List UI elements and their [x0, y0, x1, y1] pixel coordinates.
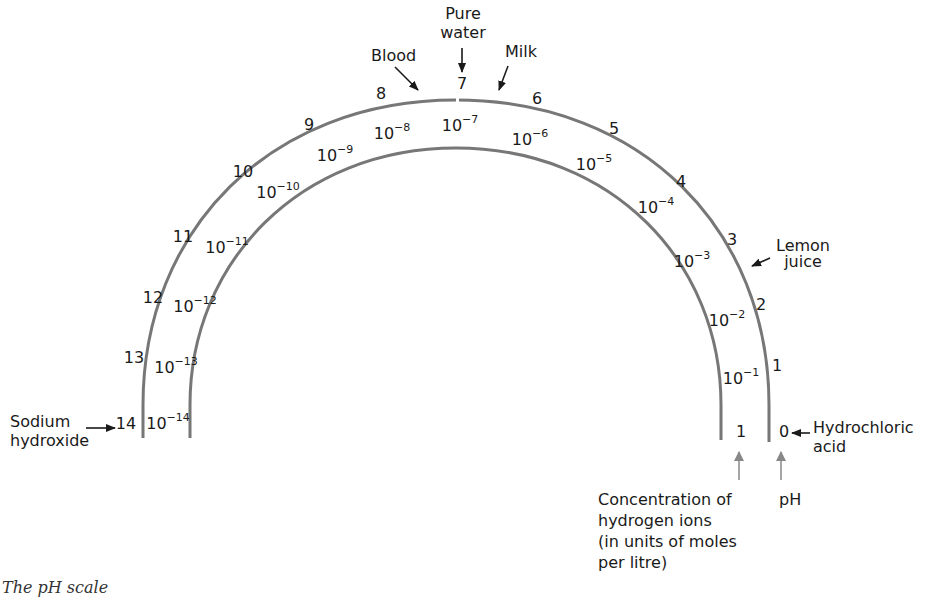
milk-label: Milk [505, 42, 537, 61]
ph-label-12: 12 [143, 289, 163, 307]
conc-label-4: 10−4 [638, 199, 675, 217]
conc-label-2: 10−2 [709, 312, 746, 330]
ph-label-3: 3 [727, 231, 737, 249]
conc-label-9: 10−9 [317, 147, 354, 165]
lemon-juice-label: Lemon juice [776, 237, 830, 269]
ph-label-14: 14 [116, 415, 136, 433]
ph-label-2: 2 [756, 296, 766, 314]
conc-label-7: 10−7 [442, 117, 479, 135]
conc-label-13: 10−13 [154, 359, 198, 377]
ph-label-9: 9 [304, 116, 314, 134]
figure-caption: The pH scale [2, 578, 108, 597]
conc-label-6: 10−6 [512, 131, 549, 149]
ph-label-1: 1 [772, 357, 782, 375]
hydrochloric-acid-label: Hydrochloric acid [813, 418, 914, 456]
conc-label-8: 10−8 [374, 125, 411, 143]
conc-label-12: 10−12 [173, 298, 217, 316]
outer-arc [143, 100, 769, 442]
sodium-hydroxide-label: Sodium hydroxide [10, 412, 89, 450]
milk-arrow [499, 66, 508, 90]
conc-label-5: 10−5 [576, 156, 613, 174]
ph-label-7: 7 [457, 75, 467, 93]
blood-arrow [395, 67, 418, 90]
conc-label-11: 10−11 [205, 239, 249, 257]
ph-label-13: 13 [124, 349, 144, 367]
ph-label-4: 4 [676, 173, 686, 191]
conc-label-14: 10−14 [146, 415, 190, 433]
ph-axis-label: pH [779, 489, 801, 510]
conc-label-1: 10−1 [723, 370, 760, 388]
lemon-juice-arrow [752, 258, 770, 266]
ph-label-8: 8 [376, 85, 386, 103]
conc-label-3: 10−3 [674, 253, 711, 271]
ph-label-10: 10 [233, 163, 253, 181]
pure-water-label: Pure water [436, 4, 490, 42]
ph-label-6: 6 [532, 90, 542, 108]
ph-label-5: 5 [609, 120, 619, 138]
ph-label-0: 0 [779, 423, 789, 441]
blood-label: Blood [371, 46, 416, 65]
conc-label-0: 1 [736, 423, 746, 441]
ph-label-11: 11 [173, 228, 193, 246]
conc-label-10: 10−10 [256, 184, 300, 202]
concentration-axis-label: Concentration of hydrogen ions (in units… [598, 489, 737, 573]
